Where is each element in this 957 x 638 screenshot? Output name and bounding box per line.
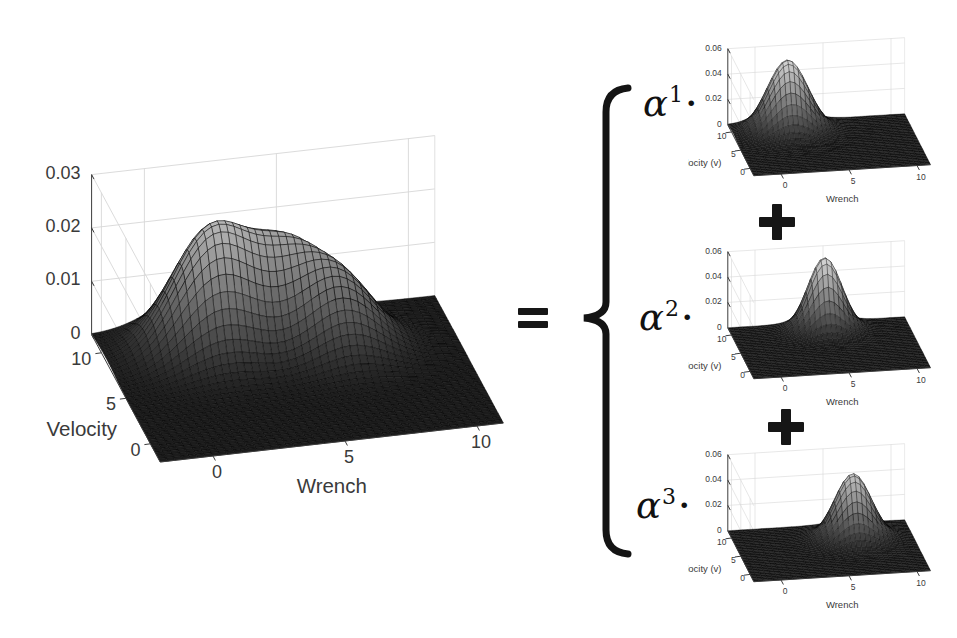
- equals-sign: =: [518, 308, 548, 328]
- svg-text:0.02: 0.02: [705, 93, 722, 103]
- svg-text:10: 10: [717, 131, 727, 141]
- equals-bottom-bar: [518, 321, 548, 328]
- svg-text:5: 5: [851, 379, 856, 389]
- svg-text:Wrench: Wrench: [297, 474, 367, 497]
- svg-text:10: 10: [717, 537, 727, 547]
- svg-text:0: 0: [717, 525, 722, 535]
- svg-text:0: 0: [783, 586, 788, 596]
- svg-text:0: 0: [717, 322, 722, 332]
- svg-text:0: 0: [740, 167, 745, 177]
- svg-text:0: 0: [740, 573, 745, 583]
- svg-text:0.03: 0.03: [46, 163, 81, 183]
- alpha-exponent: 1: [669, 82, 683, 107]
- component-3-surface-plot: 0510051000.020.040.06WrenchVelocity (v): [688, 421, 957, 624]
- svg-text:0: 0: [717, 119, 722, 129]
- component-1-surface-plot: 0510051000.020.040.06WrenchVelocity (v): [688, 15, 957, 218]
- alpha-symbol: α: [636, 484, 661, 527]
- svg-text:0: 0: [783, 383, 788, 393]
- svg-text:10: 10: [717, 334, 727, 344]
- svg-text:5: 5: [344, 447, 354, 467]
- svg-text:0: 0: [783, 180, 788, 190]
- svg-text:0: 0: [71, 323, 81, 343]
- svg-text:Wrench: Wrench: [826, 599, 859, 610]
- svg-text:Velocity: Velocity: [46, 417, 117, 440]
- component-2-surface-plot: 0510051000.020.040.06WrenchVelocity (v): [688, 218, 957, 421]
- svg-text:0.02: 0.02: [705, 499, 722, 509]
- component-3-surface-canvas: 0510051000.020.040.06WrenchVelocity (v): [688, 421, 957, 624]
- svg-text:0.04: 0.04: [705, 271, 722, 281]
- svg-text:0: 0: [740, 370, 745, 380]
- svg-text:0.02: 0.02: [705, 296, 722, 306]
- svg-text:0.01: 0.01: [46, 269, 81, 289]
- figure-canvas: 0510051000.010.020.03WrenchVelocity = { …: [0, 0, 957, 638]
- svg-text:5: 5: [731, 352, 736, 362]
- mixture-surface-plot: 0510051000.010.020.03WrenchVelocity: [20, 103, 517, 540]
- alpha-exponent: 2: [665, 296, 679, 321]
- svg-text:10: 10: [916, 172, 926, 182]
- svg-text:0.06: 0.06: [705, 246, 722, 256]
- alpha-symbol: α: [643, 82, 668, 125]
- left-curly-brace: [576, 78, 638, 562]
- svg-text:5: 5: [731, 149, 736, 159]
- svg-text:10: 10: [471, 432, 491, 452]
- component-2-surface-canvas: 0510051000.020.040.06WrenchVelocity (v): [688, 218, 957, 421]
- svg-text:Velocity (v): Velocity (v): [688, 157, 722, 168]
- svg-text:0.04: 0.04: [705, 474, 722, 484]
- alpha-exponent: 3: [662, 484, 676, 509]
- alpha-3-coefficient: α3·: [636, 486, 689, 524]
- svg-text:0.06: 0.06: [705, 449, 722, 459]
- alpha-2-coefficient: α2·: [639, 298, 692, 336]
- svg-text:5: 5: [851, 582, 856, 592]
- svg-text:10: 10: [916, 578, 926, 588]
- svg-text:0: 0: [212, 462, 222, 482]
- svg-text:0: 0: [130, 440, 140, 460]
- svg-text:Velocity (v): Velocity (v): [688, 563, 722, 574]
- alpha-symbol: α: [639, 296, 664, 339]
- svg-text:5: 5: [106, 394, 116, 414]
- equals-top-bar: [518, 308, 548, 315]
- svg-text:10: 10: [916, 375, 926, 385]
- svg-text:0.04: 0.04: [705, 68, 722, 78]
- svg-text:10: 10: [71, 349, 91, 369]
- svg-text:5: 5: [731, 555, 736, 565]
- component-1-surface-canvas: 0510051000.020.040.06WrenchVelocity (v): [688, 15, 957, 218]
- svg-text:0.02: 0.02: [46, 216, 81, 236]
- svg-text:Wrench: Wrench: [826, 193, 859, 204]
- svg-text:Wrench: Wrench: [826, 396, 859, 407]
- svg-text:0.06: 0.06: [705, 43, 722, 53]
- svg-text:Velocity (v): Velocity (v): [688, 360, 722, 371]
- mixture-surface-canvas: 0510051000.010.020.03WrenchVelocity: [20, 103, 517, 540]
- svg-text:5: 5: [851, 176, 856, 186]
